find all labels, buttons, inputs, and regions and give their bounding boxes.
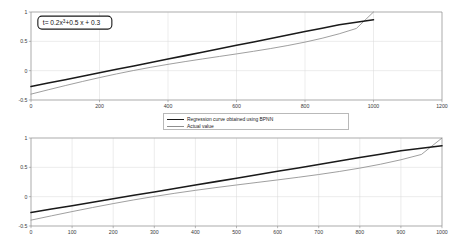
x-tick-label: 600 bbox=[273, 229, 282, 235]
y-tick-label: 0 bbox=[25, 68, 28, 74]
plot-area-top: 020040060080010001200-0.500.51t= 0.2x3+0… bbox=[0, 0, 465, 118]
x-tick-label: 0 bbox=[30, 229, 33, 235]
legend-label-actual: Actual value bbox=[187, 123, 214, 130]
x-tick-label: 500 bbox=[232, 229, 241, 235]
x-tick-label: 900 bbox=[397, 229, 406, 235]
x-tick-label: 400 bbox=[191, 229, 200, 235]
y-tick-label: 0.5 bbox=[20, 38, 27, 44]
legend-item-bpnn: Regression curve obtained using BPNN bbox=[167, 116, 345, 123]
series-line-bpnn bbox=[31, 20, 374, 87]
x-tick-label: 800 bbox=[301, 103, 310, 109]
x-tick-label: 100 bbox=[68, 229, 77, 235]
chart-legend: Regression curve obtained using BPNN Act… bbox=[163, 113, 349, 130]
equation-annotation-text: t= 0.2x3+0.5 x + 0.3 bbox=[43, 19, 101, 27]
legend-item-actual: Actual value bbox=[167, 123, 345, 130]
x-tick-label: 1000 bbox=[436, 229, 448, 235]
x-tick-label: 1000 bbox=[368, 103, 380, 109]
y-tick-label: -0.5 bbox=[18, 97, 27, 103]
chart-panel-top: 020040060080010001200-0.500.51t= 0.2x3+0… bbox=[0, 0, 465, 118]
x-tick-label: 300 bbox=[150, 229, 159, 235]
x-tick-label: 200 bbox=[95, 103, 104, 109]
x-tick-label: 600 bbox=[232, 103, 241, 109]
x-tick-label: 700 bbox=[314, 229, 323, 235]
x-tick-label: 200 bbox=[109, 229, 118, 235]
x-tick-label: 1200 bbox=[436, 103, 448, 109]
legend-label-bpnn: Regression curve obtained using BPNN bbox=[187, 116, 273, 123]
y-tick-label: 1 bbox=[25, 9, 28, 15]
x-tick-label: 400 bbox=[164, 103, 173, 109]
y-tick-label: -0.5 bbox=[18, 223, 27, 229]
legend-swatch-actual-icon bbox=[167, 126, 184, 127]
chart-panel-bottom: 01002003004005006007008009001000-0.500.5… bbox=[0, 128, 465, 248]
legend-swatch-bpnn-icon bbox=[167, 119, 184, 120]
x-tick-label: 0 bbox=[30, 103, 33, 109]
y-tick-label: 1 bbox=[25, 135, 28, 141]
x-tick-label: 800 bbox=[355, 229, 364, 235]
plot-area-bottom: 01002003004005006007008009001000-0.500.5… bbox=[0, 128, 465, 248]
y-tick-label: 0.5 bbox=[20, 164, 27, 170]
y-tick-label: 0 bbox=[25, 194, 28, 200]
